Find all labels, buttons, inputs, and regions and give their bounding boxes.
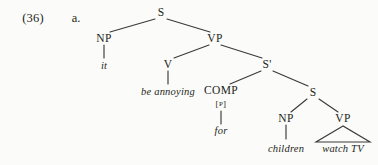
node-s-root: S: [158, 7, 165, 19]
comp-feature-bracket: [P]: [215, 100, 226, 109]
node-s-bar: S': [263, 59, 272, 71]
branch-vp-to-sbar: [221, 45, 262, 58]
tree-branch-lines: [0, 0, 378, 165]
branch-s-emb-to-np: [291, 99, 307, 112]
feature-bracket-close: ]: [223, 99, 226, 109]
branch-s-to-np: [110, 19, 155, 32]
branch-s-to-vp: [167, 19, 210, 32]
node-np-subject: NP: [96, 33, 111, 45]
terminal-children: children: [268, 144, 304, 155]
node-comp: COMP: [204, 85, 238, 97]
example-letter: a.: [72, 12, 81, 25]
terminal-it: it: [101, 61, 107, 72]
node-np-embedded: NP: [278, 113, 293, 125]
node-s-embedded: S: [310, 87, 317, 99]
terminal-for: for: [215, 126, 228, 137]
branch-sbar-to-s: [273, 71, 308, 86]
example-number: (36): [22, 12, 44, 25]
node-v: V: [164, 59, 173, 71]
figure-canvas: (36) a. S NP VP V S' COMP S NP VP [P] it…: [0, 0, 378, 165]
terminal-be-annoying: be annoying: [141, 87, 195, 98]
branch-s-emb-to-vp: [319, 99, 338, 112]
triangle-vp-watch-tv: [316, 126, 370, 142]
terminal-watch-tv: watch TV: [322, 144, 364, 155]
node-vp-embedded: VP: [335, 113, 350, 125]
branch-vp-to-v: [174, 45, 209, 58]
node-vp-main: VP: [207, 33, 222, 45]
branch-sbar-to-comp: [230, 71, 261, 84]
